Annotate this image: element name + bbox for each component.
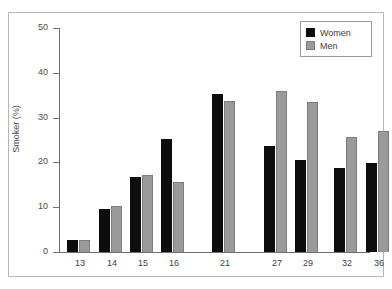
y-axis-tick-label-text: 40 [22,68,48,77]
x-axis-tick-label: 16 [159,258,189,268]
legend-swatch-icon [306,28,315,37]
bar-group [334,28,358,252]
x-axis-tick-label: 14 [97,258,127,268]
y-axis-tick-label: 50 [22,23,48,33]
x-axis-tick-label: 29 [293,258,323,268]
y-axis-tick-label-text: 20 [22,157,48,166]
x-axis-tick-label: 13 [65,258,95,268]
legend-swatch-icon [306,41,315,50]
bar-men [79,240,90,252]
bar-group [264,28,288,252]
x-axis-tick-label: 32 [332,258,362,268]
bar-men [142,175,153,252]
bar-men [307,102,318,252]
bar-men [276,91,287,252]
bar-group [161,28,185,252]
legend-item: Women [306,26,366,39]
bar-men [224,101,235,252]
x-axis-tick-label: 21 [210,258,240,268]
y-axis-tick-label: 40 [22,68,48,78]
bar-men [173,182,184,252]
bar-men [378,131,389,252]
y-axis-tick-label: 20 [22,157,48,167]
legend-item: Men [306,39,366,52]
y-axis-tick-label-text: 10 [22,202,48,211]
bar-group [67,28,91,252]
bar-group [212,28,236,252]
bar-group [366,28,390,252]
bar-men [346,137,357,252]
y-axis-tick-label: 30 [22,113,48,123]
y-axis-tick-label-text: 50 [22,23,48,32]
bar-women [366,163,377,252]
bar-group [99,28,123,252]
bar-women [264,146,275,252]
chart-figure: 01020304050 Smoker (%) 13141516212729323… [0,0,392,289]
legend-label: Women [320,28,351,38]
bar-women [334,168,345,252]
chart-legend: WomenMen [300,21,372,57]
bar-group [130,28,154,252]
bar-women [99,209,110,252]
x-axis-tick-label: 27 [262,258,292,268]
bar-women [130,177,141,252]
bar-men [111,206,122,252]
x-axis-tick-label: 36 [364,258,392,268]
y-axis-tick-label-text: 0 [22,247,48,256]
y-axis-tick-label: 10 [22,202,48,212]
plot-area [59,28,369,252]
bar-women [212,94,223,252]
x-axis-tick-label: 15 [128,258,158,268]
bar-women [295,160,306,252]
legend-label: Men [320,41,338,51]
y-axis-title: Smoker (%) [11,89,21,169]
bar-women [67,240,78,252]
y-axis-tick [53,252,59,253]
x-axis-line [59,252,370,253]
bar-group [295,28,319,252]
y-axis-tick-label-text: 30 [22,113,48,122]
bar-women [161,139,172,252]
y-axis-tick-label: 0 [22,247,48,257]
